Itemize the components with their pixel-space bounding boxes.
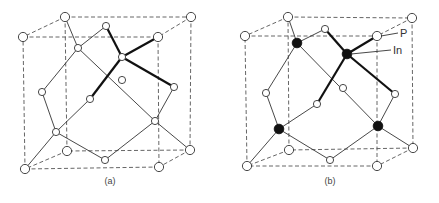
corner-atom <box>372 31 381 40</box>
in-atom <box>342 49 352 59</box>
atom <box>321 25 328 32</box>
panel-b-inp-lattice: PIn(b) <box>240 12 417 186</box>
corner-atom <box>408 143 417 152</box>
cube-edge <box>245 36 247 166</box>
panel-a-zincblende-lattice: (a) <box>18 12 195 186</box>
corner-atom <box>242 161 251 170</box>
atom <box>52 128 59 135</box>
cube-edge <box>25 167 159 169</box>
cube-edge <box>288 17 289 150</box>
atom <box>74 44 81 51</box>
atom <box>86 95 93 102</box>
bond <box>155 87 174 121</box>
bond <box>297 43 378 126</box>
atom <box>262 89 269 96</box>
cube-edge <box>412 18 413 148</box>
corner-atom <box>20 164 29 173</box>
unit-cube-edges <box>23 17 191 169</box>
unit-cube-edges <box>245 17 413 166</box>
cube-edge <box>288 17 412 18</box>
cube-edge <box>25 151 67 169</box>
atom-label-p: P <box>400 27 407 39</box>
bonds <box>25 17 190 169</box>
atom <box>38 88 45 95</box>
panel-caption: (a) <box>105 176 116 186</box>
bond <box>247 129 279 166</box>
corner-atom <box>283 12 292 21</box>
crystal-structure-diagram: (a) PIn(b) <box>0 0 439 203</box>
bond <box>56 132 105 160</box>
tetrahedral-bond <box>122 37 158 57</box>
bond <box>42 92 56 132</box>
corner-atom <box>186 12 195 21</box>
cube-edge <box>158 37 159 167</box>
corner-atom <box>153 32 162 41</box>
atom <box>326 156 333 163</box>
bond <box>279 129 330 160</box>
atom <box>170 83 177 90</box>
tetrahedral-bond <box>317 54 347 104</box>
tetrahedral-bond <box>122 57 174 87</box>
in-atom <box>274 124 284 134</box>
tetrahedral-bond <box>106 26 122 57</box>
corner-atom <box>240 31 249 40</box>
cube-edge <box>67 150 190 151</box>
bond <box>56 99 90 132</box>
bond <box>266 93 279 129</box>
bond <box>155 121 190 150</box>
corner-atom <box>154 162 163 171</box>
corner-atom <box>62 146 71 155</box>
cube-edge <box>159 150 190 167</box>
corner-atom <box>60 12 69 21</box>
atom-label-in: In <box>393 44 402 56</box>
corner-atom <box>18 32 27 41</box>
in-atom <box>373 121 383 131</box>
atom <box>118 76 125 83</box>
tetrahedral-bond <box>347 54 395 94</box>
tetrahedral-bond <box>90 57 122 99</box>
bond <box>330 126 378 160</box>
atom <box>391 90 398 97</box>
cube-edge <box>190 17 191 150</box>
label-leader-line <box>381 33 398 36</box>
cube-edge <box>23 37 25 169</box>
bond <box>25 132 56 169</box>
corner-atom <box>407 13 416 22</box>
cube-edge <box>158 17 191 37</box>
in-atom <box>292 38 302 48</box>
atom <box>102 22 109 29</box>
bond <box>378 94 395 126</box>
bond <box>266 43 297 93</box>
corner-atom <box>284 145 293 154</box>
panel-caption: (b) <box>325 176 336 186</box>
atom <box>151 117 158 124</box>
corner-atom <box>185 145 194 154</box>
bond <box>42 48 78 92</box>
cube-edge <box>23 17 65 37</box>
atom <box>101 156 108 163</box>
cube-edge <box>289 148 413 150</box>
label-leader-line <box>351 50 391 54</box>
atom <box>313 100 320 107</box>
bond <box>378 126 413 148</box>
bond <box>105 121 155 160</box>
atom <box>339 84 346 91</box>
corner-atom <box>372 161 381 170</box>
bond <box>279 104 317 129</box>
cube-edge <box>245 17 288 36</box>
atom <box>118 53 125 60</box>
bond <box>78 48 155 121</box>
bonds <box>247 17 413 166</box>
cube-edge <box>377 148 413 166</box>
cube-edge <box>247 150 289 166</box>
